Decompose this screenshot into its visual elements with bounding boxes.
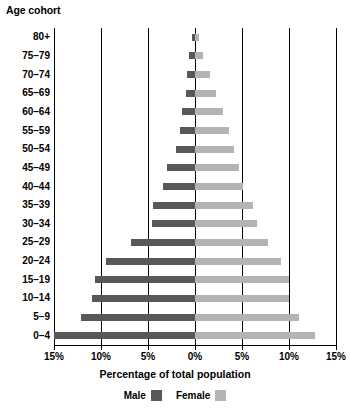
bar-female [195,164,239,171]
bar-row [54,332,336,339]
y-axis-tick-label: 50–54 [0,143,50,154]
bar-male [182,108,195,115]
bar-row [54,276,336,283]
y-axis-tick-label: 80+ [0,31,50,42]
y-axis-tick-label: 10–14 [0,292,50,303]
bar-row [54,183,336,190]
population-pyramid-chart: Age cohort 80+75–7970–7465–6960–6455–595… [0,0,350,411]
x-axis-tick-label: 15% [316,351,350,362]
x-axis-tick [195,345,196,350]
bar-row [54,202,336,209]
bar-female [195,276,289,283]
plot-area [54,28,336,345]
bar-female [195,220,257,227]
y-axis-tick-label: 55–59 [0,125,50,136]
bar-row [54,34,336,41]
bar-male [81,314,195,321]
bar-female [195,52,203,59]
x-axis-tick-label: 5% [128,351,168,362]
y-axis-tick-label: 15–19 [0,274,50,285]
legend-label-male: Male [124,390,146,401]
x-axis-title: Percentage of total population [0,368,350,380]
bar-row [54,239,336,246]
x-axis-tick [289,345,290,350]
y-axis-tick-label: 30–34 [0,218,50,229]
x-axis-tick-label: 10% [81,351,121,362]
bar-row [54,146,336,153]
y-axis-tick-label: 25–29 [0,236,50,247]
bar-row [54,164,336,171]
bar-male [180,127,195,134]
bar-female [195,332,315,339]
legend-item-female: Female [176,390,226,401]
y-axis-tick-label: 40–44 [0,181,50,192]
y-axis-tick-label: 5–9 [0,311,50,322]
bar-male [187,71,195,78]
bar-male [95,276,195,283]
bar-female [195,146,234,153]
bar-row [54,220,336,227]
legend-item-male: Male [124,390,162,401]
x-axis-tick [54,345,55,350]
x-axis-tick [148,345,149,350]
bar-male [54,332,195,339]
gridline [336,28,337,345]
bar-male [176,146,195,153]
bar-male [167,164,195,171]
bar-female [195,127,229,134]
y-axis-tick-label: 70–74 [0,69,50,80]
y-axis-tick-label: 65–69 [0,87,50,98]
x-axis-tick-label: 5% [222,351,262,362]
bar-female [195,258,281,265]
x-axis-tick-label: 0% [175,351,215,362]
y-axis-tick-label: 60–64 [0,106,50,117]
bar-female [195,90,216,97]
bar-female [195,295,289,302]
bar-male [153,202,195,209]
y-axis-tick-labels: 80+75–7970–7465–6960–6455–5950–5445–4940… [0,28,50,345]
x-axis-tick-label: 10% [269,351,309,362]
bar-row [54,90,336,97]
bar-female [195,202,253,209]
bar-female [195,239,268,246]
legend-swatch-male [151,390,162,401]
bar-female [195,108,223,115]
bar-row [54,52,336,59]
bar-female [195,183,243,190]
bar-male [152,220,195,227]
x-axis-tick [242,345,243,350]
y-axis-tick-label: 45–49 [0,162,50,173]
bar-row [54,314,336,321]
bar-row [54,295,336,302]
bar-male [131,239,195,246]
bar-male [106,258,195,265]
bar-female [195,34,199,41]
chart-legend: Male Female [0,390,350,401]
x-axis-tick [101,345,102,350]
y-axis-tick-label: 75–79 [0,50,50,61]
legend-label-female: Female [176,390,210,401]
y-axis-tick-label: 20–24 [0,255,50,266]
x-axis-tick [336,345,337,350]
bar-row [54,108,336,115]
y-axis-title: Age cohort [6,4,60,16]
bar-male [186,90,195,97]
y-axis-tick-label: 0–4 [0,330,50,341]
x-axis-tick-label: 15% [34,351,74,362]
bar-female [195,314,299,321]
bar-row [54,71,336,78]
bar-female [195,71,210,78]
bar-row [54,127,336,134]
bar-male [163,183,195,190]
bar-male [92,295,195,302]
bar-row [54,258,336,265]
y-axis-tick-label: 35–39 [0,199,50,210]
legend-swatch-female [215,390,226,401]
